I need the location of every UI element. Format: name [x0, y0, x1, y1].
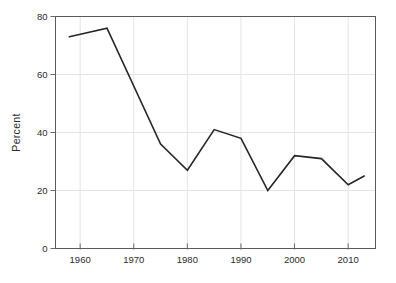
gridlines: [56, 17, 376, 249]
y-tick-label: 20: [37, 185, 48, 196]
x-tick-label: 1980: [177, 254, 198, 265]
data-line-series: [69, 28, 364, 190]
y-tick-label: 0: [42, 243, 47, 254]
x-tick-label: 1990: [230, 254, 251, 265]
x-axis-tick-labels: 196019701980199020002010: [70, 254, 359, 265]
y-axis-title: Percent: [10, 113, 22, 151]
x-tick-label: 2010: [338, 254, 359, 265]
x-tick-label: 1960: [70, 254, 91, 265]
x-tick-label: 1970: [123, 254, 144, 265]
y-tick-label: 60: [37, 69, 48, 80]
x-tick-label: 2000: [284, 254, 305, 265]
y-tick-label: 40: [37, 127, 48, 138]
y-tick-label: 80: [37, 11, 48, 22]
line-chart-figure: 196019701980199020002010 020406080 Perce…: [0, 0, 396, 283]
y-axis-tick-labels: 020406080: [37, 11, 48, 254]
percent-line-chart: 196019701980199020002010 020406080 Perce…: [0, 0, 396, 283]
